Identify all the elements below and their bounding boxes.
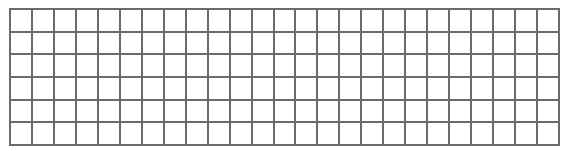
grid-cell bbox=[55, 101, 77, 124]
grid-cell bbox=[77, 10, 99, 33]
grid-cell bbox=[428, 78, 450, 101]
grid-cell bbox=[253, 33, 275, 56]
grid-cell bbox=[99, 33, 121, 56]
grid-cell bbox=[362, 101, 384, 124]
grid-cell bbox=[362, 123, 384, 146]
grid-cell bbox=[494, 10, 516, 33]
grid-cell bbox=[209, 78, 231, 101]
grid-cell bbox=[143, 33, 165, 56]
grid-cell bbox=[275, 101, 297, 124]
grid-cell bbox=[231, 123, 253, 146]
grid-cell bbox=[472, 78, 494, 101]
grid-cell bbox=[231, 55, 253, 78]
grid-cell bbox=[494, 55, 516, 78]
grid-cell bbox=[187, 78, 209, 101]
grid-cell bbox=[296, 33, 318, 56]
grid-cell bbox=[428, 123, 450, 146]
grid-cell bbox=[362, 55, 384, 78]
grid-cell bbox=[231, 33, 253, 56]
grid-cell bbox=[406, 55, 428, 78]
grid-cell bbox=[55, 33, 77, 56]
grid-cell bbox=[296, 10, 318, 33]
grid-cell bbox=[340, 55, 362, 78]
grid-cell bbox=[494, 33, 516, 56]
grid-cell bbox=[143, 123, 165, 146]
grid-cell bbox=[55, 10, 77, 33]
grid-cell bbox=[362, 33, 384, 56]
grid-cell bbox=[77, 78, 99, 101]
grid-cell bbox=[231, 10, 253, 33]
grid-cell bbox=[340, 123, 362, 146]
grid-cell bbox=[362, 10, 384, 33]
grid-cell bbox=[296, 78, 318, 101]
grid-cell bbox=[318, 55, 340, 78]
grid-cell bbox=[253, 55, 275, 78]
grid-cell bbox=[143, 101, 165, 124]
grid-cell bbox=[450, 78, 472, 101]
grid-cell bbox=[538, 101, 560, 124]
grid-cell bbox=[340, 10, 362, 33]
grid-cell bbox=[165, 123, 187, 146]
grid-cell bbox=[516, 123, 538, 146]
grid-cell bbox=[340, 33, 362, 56]
grid-cell bbox=[33, 101, 55, 124]
grid-cell bbox=[55, 55, 77, 78]
grid-cell bbox=[472, 10, 494, 33]
grid-cell bbox=[11, 123, 33, 146]
grid-cell bbox=[11, 55, 33, 78]
grid-cell bbox=[165, 78, 187, 101]
grid-cell bbox=[11, 10, 33, 33]
grid-cell bbox=[253, 123, 275, 146]
grid-cell bbox=[143, 55, 165, 78]
grid-cell bbox=[165, 10, 187, 33]
grid-cell bbox=[165, 101, 187, 124]
grid-cell bbox=[384, 33, 406, 56]
grid-cell bbox=[538, 10, 560, 33]
grid-cell bbox=[516, 78, 538, 101]
grid-cell bbox=[516, 10, 538, 33]
grid-cell bbox=[450, 55, 472, 78]
grid-cell bbox=[318, 78, 340, 101]
grid-cell bbox=[538, 33, 560, 56]
grid-cell bbox=[77, 101, 99, 124]
grid-cell bbox=[538, 123, 560, 146]
grid-cell bbox=[33, 33, 55, 56]
grid-cell bbox=[406, 78, 428, 101]
grid-cell bbox=[296, 123, 318, 146]
grid-cell bbox=[406, 10, 428, 33]
grid-cell bbox=[209, 55, 231, 78]
grid-cell bbox=[275, 123, 297, 146]
grid-cell bbox=[384, 101, 406, 124]
grid-cell bbox=[121, 78, 143, 101]
grid-cell bbox=[318, 33, 340, 56]
grid-cell bbox=[472, 55, 494, 78]
grid-cell bbox=[121, 33, 143, 56]
grid-cell bbox=[143, 78, 165, 101]
grid-cell bbox=[55, 123, 77, 146]
grid-cell bbox=[187, 10, 209, 33]
grid-cell bbox=[11, 101, 33, 124]
grid-cell bbox=[428, 33, 450, 56]
grid-cell bbox=[406, 33, 428, 56]
grid-cell bbox=[340, 101, 362, 124]
grid-cell bbox=[11, 33, 33, 56]
grid-cell bbox=[450, 10, 472, 33]
grid-cell bbox=[428, 101, 450, 124]
grid-cell bbox=[494, 123, 516, 146]
grid-cell bbox=[384, 123, 406, 146]
grid-cell bbox=[165, 33, 187, 56]
grid-cell bbox=[187, 123, 209, 146]
grid-cell bbox=[428, 10, 450, 33]
empty-grid bbox=[9, 8, 560, 146]
grid-cell bbox=[275, 10, 297, 33]
grid-cell bbox=[99, 78, 121, 101]
grid-cell bbox=[472, 101, 494, 124]
grid-cell bbox=[472, 123, 494, 146]
grid-cell bbox=[253, 78, 275, 101]
grid-cell bbox=[209, 10, 231, 33]
grid-cell bbox=[275, 55, 297, 78]
grid-cell bbox=[187, 101, 209, 124]
grid-cell bbox=[99, 10, 121, 33]
grid-cell bbox=[231, 78, 253, 101]
grid-cell bbox=[209, 101, 231, 124]
